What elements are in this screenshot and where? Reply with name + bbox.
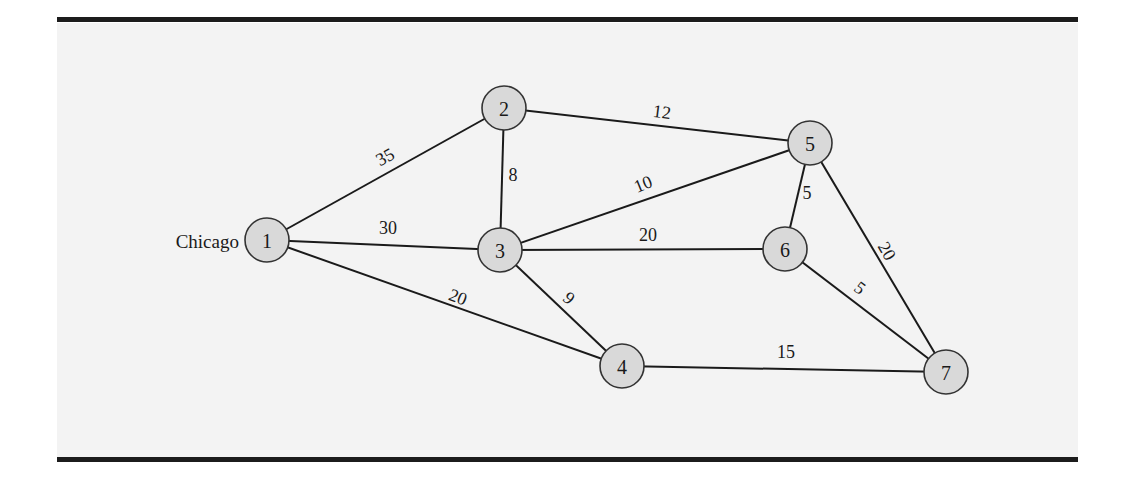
edge-weight-label: 5 — [850, 277, 869, 298]
edge-4-7: 15 — [622, 342, 946, 372]
edge-weight-label: 8 — [509, 165, 518, 185]
edge-weight-label: 10 — [631, 171, 655, 196]
edge-weight-label: 9 — [559, 287, 579, 308]
edge-line — [810, 143, 946, 372]
node-label: 5 — [805, 133, 815, 155]
node-7: 7 — [924, 350, 968, 394]
node-6: 6 — [763, 227, 807, 271]
origin-label-chicago: Chicago — [176, 231, 239, 252]
edge-weight-label: 15 — [777, 342, 795, 362]
node-5: 5 — [788, 121, 832, 165]
edges-layer: 35302081210209520515 — [267, 101, 946, 372]
edge-weight-label: 20 — [874, 238, 900, 264]
edge-1-3: 30 — [267, 218, 500, 250]
edge-weight-label: 5 — [803, 183, 812, 203]
node-3: 3 — [478, 228, 522, 272]
edge-line — [267, 240, 500, 250]
node-label: 6 — [780, 239, 790, 261]
nodes-layer: 1234567 — [245, 86, 968, 394]
node-4: 4 — [600, 344, 644, 388]
edge-2-5: 12 — [504, 101, 810, 143]
edge-5-7: 20 — [810, 143, 946, 372]
node-1: 1 — [245, 218, 289, 262]
node-label: 1 — [262, 230, 272, 252]
edge-line — [500, 250, 622, 366]
network-graph: 35302081210209520515 1234567 Chicago — [0, 0, 1136, 483]
edge-line — [785, 249, 946, 372]
edge-6-7: 5 — [785, 249, 946, 372]
node-2: 2 — [482, 86, 526, 130]
edge-3-6: 20 — [500, 225, 785, 250]
edge-weight-label: 20 — [639, 225, 657, 245]
node-label: 7 — [941, 362, 951, 384]
node-label: 3 — [495, 240, 505, 262]
edge-3-4: 9 — [500, 250, 622, 366]
node-label: 2 — [499, 98, 509, 120]
edge-weight-label: 35 — [372, 144, 397, 170]
edge-weight-label: 12 — [652, 101, 672, 123]
edge-weight-label: 30 — [379, 218, 397, 238]
edge-line — [500, 249, 785, 250]
node-label: 4 — [617, 356, 627, 378]
edge-line — [622, 366, 946, 372]
